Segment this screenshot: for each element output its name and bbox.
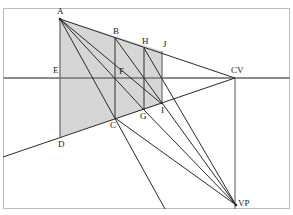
label-E: E: [53, 66, 59, 75]
label-VP: VP: [238, 199, 250, 208]
label-C: C: [110, 121, 116, 130]
point-A: [59, 18, 62, 21]
point-VP: [235, 204, 238, 207]
perspective-diagram: [0, 0, 293, 215]
label-D: D: [58, 140, 65, 149]
label-J: J: [163, 40, 167, 49]
label-F: F: [119, 67, 124, 76]
label-H: H: [142, 37, 149, 46]
label-I: I: [161, 106, 164, 115]
label-B: B: [113, 27, 119, 36]
label-CV: CV: [231, 66, 244, 75]
label-A: A: [57, 7, 64, 16]
label-G: G: [140, 112, 147, 121]
